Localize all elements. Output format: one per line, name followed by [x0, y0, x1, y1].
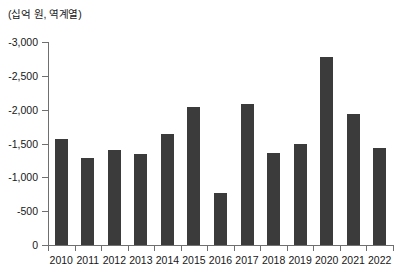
- x-axis-tick-label: 2012: [101, 254, 128, 266]
- bar: [161, 134, 174, 245]
- y-axis-tick: [42, 76, 48, 77]
- x-axis-tick-label: 2014: [154, 254, 181, 266]
- y-axis-tick-label: -1,500: [0, 139, 38, 150]
- x-axis-tick: [128, 246, 129, 251]
- bar: [347, 114, 360, 245]
- y-axis-tick-label: 0: [0, 240, 38, 251]
- y-axis-tick-label: -500: [0, 206, 38, 217]
- bar: [108, 150, 121, 245]
- y-axis-line: [48, 42, 49, 246]
- bar: [267, 153, 280, 245]
- y-axis-tick-label: -1,000: [0, 172, 38, 183]
- x-axis-tick: [313, 246, 314, 251]
- x-axis-tick: [366, 246, 367, 251]
- y-axis-tick-label: -2,000: [0, 105, 38, 116]
- bar: [81, 158, 94, 245]
- x-axis-tick: [154, 246, 155, 251]
- y-axis-tick-label: -2,500: [0, 71, 38, 82]
- y-axis-tick: [42, 211, 48, 212]
- x-axis-tick: [260, 246, 261, 251]
- bar: [187, 107, 200, 245]
- y-axis-tick: [42, 144, 48, 145]
- x-axis-tick-label: 2022: [366, 254, 393, 266]
- x-axis-tick-label: 2018: [260, 254, 287, 266]
- x-axis-tick: [101, 246, 102, 251]
- x-axis-tick-label: 2021: [340, 254, 367, 266]
- x-axis-tick-label: 2019: [287, 254, 314, 266]
- x-axis-tick: [340, 246, 341, 251]
- x-axis-tick: [181, 246, 182, 251]
- x-axis-tick: [287, 246, 288, 251]
- bar: [294, 144, 307, 246]
- y-axis-unit-caption: (십억 원, 역계열): [8, 6, 82, 21]
- y-axis-tick-label: -3,000: [0, 37, 38, 48]
- x-axis-tick-label: 2020: [313, 254, 340, 266]
- bar: [373, 148, 386, 245]
- y-axis-tick: [42, 110, 48, 111]
- x-axis-tick-label: 2016: [207, 254, 234, 266]
- x-axis-tick: [48, 246, 49, 251]
- x-axis-tick: [207, 246, 208, 251]
- x-axis-tick-label: 2010: [48, 254, 75, 266]
- bar: [320, 57, 333, 245]
- x-axis-tick: [75, 246, 76, 251]
- bar: [134, 154, 147, 245]
- y-axis-tick: [42, 42, 48, 43]
- x-axis-tick: [393, 246, 394, 251]
- x-axis-tick-label: 2011: [75, 254, 102, 266]
- bar: [214, 193, 227, 245]
- x-axis-tick-label: 2015: [181, 254, 208, 266]
- bar: [55, 139, 68, 245]
- y-axis-tick: [42, 177, 48, 178]
- x-axis-tick-label: 2017: [234, 254, 261, 266]
- x-axis-baseline: [48, 245, 394, 246]
- x-axis-tick: [234, 246, 235, 251]
- x-axis-tick-label: 2013: [128, 254, 155, 266]
- bar: [241, 104, 254, 245]
- bar-chart: (십억 원, 역계열) 0-500-1,000-1,500-2,000-2,50…: [0, 0, 401, 275]
